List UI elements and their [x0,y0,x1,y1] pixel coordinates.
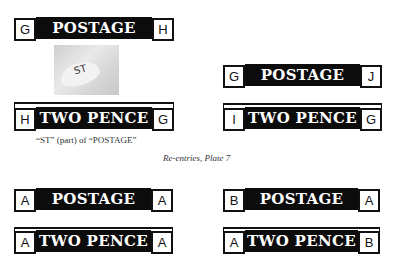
bottom-right-twopence-panel: A TWO PENCE B [223,230,380,252]
corner-letter-left: I [223,108,245,131]
panel-text: POSTAGE [245,188,358,210]
corner-letter-right: G [360,108,382,131]
corner-letter-left: G [14,18,36,41]
corner-letter-right: H [152,18,174,41]
bottom-left-postage-panel: A POSTAGE A [14,188,173,210]
panel-text: TWO PENCE [245,230,358,252]
top-left-twopence-panel: H TWO PENCE G [14,107,174,129]
panel-text: TWO PENCE [245,107,360,129]
bottom-right-frame-line [223,227,380,229]
bottom-right-postage-panel: B POSTAGE A [223,188,380,210]
corner-letter-right: G [152,108,174,131]
corner-letter-left: B [223,189,245,212]
corner-letter-right: A [151,231,173,254]
corner-letter-left: A [14,189,36,212]
corner-letter-right: J [360,65,382,88]
section-caption: Re-entries, Plate 7 [163,153,230,163]
corner-letter-right: A [151,189,173,212]
top-left-frame-line [14,102,174,104]
panel-text: POSTAGE [36,17,152,39]
panel-text: TWO PENCE [36,107,152,129]
bottom-left-twopence-panel: A TWO PENCE A [14,230,173,252]
panel-text: POSTAGE [36,188,151,210]
st-detail-image: ST [54,45,119,95]
top-right-frame-line [223,103,382,105]
corner-letter-left: H [14,108,36,131]
panel-text: POSTAGE [245,64,360,86]
corner-letter-left: A [223,231,245,254]
top-left-postage-panel: G POSTAGE H [14,17,174,39]
corner-letter-right: B [358,231,380,254]
bottom-left-frame-line [14,227,173,229]
corner-letter-left: A [14,231,36,254]
panel-text: TWO PENCE [36,230,151,252]
corner-letter-right: A [358,189,380,212]
figure-caption: “ST” (part) of “POSTAGE” [36,135,137,145]
top-right-postage-panel: G POSTAGE J [223,64,382,86]
top-right-twopence-panel: I TWO PENCE G [223,107,382,129]
corner-letter-left: G [223,65,245,88]
